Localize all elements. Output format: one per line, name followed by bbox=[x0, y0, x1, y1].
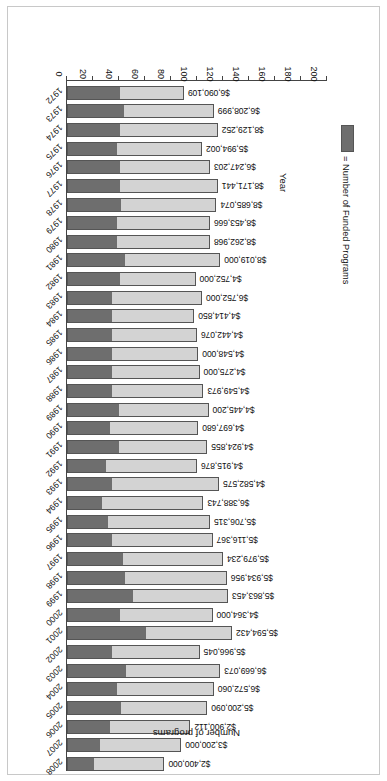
rotated-page-content: EXHIBIT 4-4 Funding History for U.S. Phy… bbox=[0, 0, 387, 781]
axis-tick-label: 40 bbox=[104, 69, 114, 79]
year-label: 1998 bbox=[44, 570, 65, 591]
funding-bar bbox=[67, 123, 218, 137]
year-label: 1984 bbox=[44, 309, 65, 330]
programs-bar-segment bbox=[68, 310, 112, 322]
funding-bar bbox=[67, 682, 214, 696]
programs-bar-segment bbox=[68, 646, 112, 658]
programs-bar-segment bbox=[68, 255, 125, 267]
programs-bar-segment bbox=[68, 217, 117, 229]
funding-bar bbox=[67, 309, 194, 323]
funding-bar bbox=[67, 160, 210, 174]
axis-tick-label: 140 bbox=[231, 66, 241, 81]
year-label: 1983 bbox=[44, 290, 65, 311]
year-label: 1991 bbox=[44, 439, 65, 460]
funding-value-label: $4,414,850 bbox=[198, 309, 240, 323]
bar-row: $2,400,000 bbox=[67, 757, 327, 771]
programs-bar-segment bbox=[68, 273, 120, 285]
funding-value-label: $5,966,045 bbox=[204, 645, 246, 659]
funding-bar bbox=[67, 365, 200, 379]
year-label: 1978 bbox=[44, 197, 65, 218]
funding-value-label: $5,994,002 bbox=[206, 142, 248, 156]
bar-row: $4,414,850 bbox=[67, 309, 327, 323]
year-label: 1988 bbox=[44, 383, 65, 404]
programs-bar-segment bbox=[68, 87, 120, 99]
funding-value-label: $5,979,234 bbox=[227, 552, 269, 566]
year-label: 2001 bbox=[44, 626, 65, 647]
bar-row: $4,915,876 bbox=[67, 459, 327, 473]
funding-bar bbox=[67, 403, 209, 417]
year-label: 1976 bbox=[44, 160, 65, 181]
axis-tick-label: 100 bbox=[179, 66, 189, 81]
bar-row: $5,116,367 bbox=[67, 533, 327, 547]
programs-bar-segment bbox=[68, 758, 94, 770]
bar-row: $4,752,000 bbox=[67, 272, 327, 286]
programs-bar-segment bbox=[68, 404, 119, 416]
funding-value-label: $4,915,876 bbox=[201, 459, 243, 473]
bar-row: $5,594,432 bbox=[67, 626, 327, 640]
axis-tick bbox=[248, 76, 249, 81]
funding-value-label: $6,090,109 bbox=[188, 86, 230, 100]
funding-value-label: $4,445,200 bbox=[213, 403, 255, 417]
year-label: 1982 bbox=[44, 272, 65, 293]
programs-bar-segment bbox=[68, 627, 146, 639]
programs-bar-segment bbox=[68, 572, 125, 584]
bar-row: $5,200,090 bbox=[67, 701, 327, 715]
programs-bar-segment bbox=[68, 516, 108, 528]
year-label: 2007 bbox=[44, 738, 65, 759]
programs-bar-segment bbox=[68, 478, 112, 490]
legend-label-programs: = Number of Funded Programs bbox=[341, 156, 351, 284]
programs-bar-segment bbox=[68, 683, 117, 695]
legend-swatch-programs bbox=[341, 125, 354, 152]
funding-bar bbox=[67, 291, 202, 305]
funding-value-label: $5,706,315 bbox=[214, 515, 256, 529]
funding-bar bbox=[67, 626, 232, 640]
year-label: 2006 bbox=[44, 719, 65, 740]
bar-row: $4,548,000 bbox=[67, 347, 327, 361]
bar-row: $6,572,060 bbox=[67, 682, 327, 696]
bar-row: $4,364,000 bbox=[67, 608, 327, 622]
funding-bar bbox=[67, 459, 197, 473]
year-label: 1992 bbox=[44, 458, 65, 479]
programs-bar-segment bbox=[68, 590, 133, 602]
funding-bar bbox=[67, 533, 213, 547]
bar-row: $6,208,999 bbox=[67, 104, 327, 118]
bar-row: $4,582,575 bbox=[67, 477, 327, 491]
funding-value-label: $8,171,441 bbox=[222, 179, 264, 193]
funding-value-label: $4,752,000 bbox=[200, 272, 242, 286]
axis-tick bbox=[144, 76, 145, 81]
axis-tick bbox=[300, 76, 301, 81]
funding-value-label: $4,697,680 bbox=[202, 421, 244, 435]
axis-tick bbox=[170, 76, 171, 81]
programs-bar-segment bbox=[68, 422, 110, 434]
axis-tick bbox=[326, 76, 327, 81]
axis-tick-label: 180 bbox=[283, 66, 293, 81]
programs-bar-segment bbox=[68, 702, 121, 714]
programs-bar-segment bbox=[68, 161, 120, 173]
programs-bar-segment bbox=[68, 143, 117, 155]
year-label: 1973 bbox=[44, 104, 65, 125]
funding-bar bbox=[67, 254, 220, 268]
axis-tick bbox=[274, 76, 275, 81]
year-label: 2000 bbox=[44, 607, 65, 628]
funding-value-label: $6,388,743 bbox=[208, 496, 250, 510]
axis-tick bbox=[118, 76, 119, 81]
year-label: 1987 bbox=[44, 365, 65, 386]
funding-bar bbox=[67, 216, 210, 230]
year-label: 1974 bbox=[44, 122, 65, 143]
year-label: 1994 bbox=[44, 495, 65, 516]
year-label: 1980 bbox=[44, 234, 65, 255]
funding-bar bbox=[67, 198, 217, 212]
funding-bar bbox=[67, 515, 210, 529]
funding-value-label: $5,594,432 bbox=[236, 626, 278, 640]
funding-value-label: $5,200,090 bbox=[211, 701, 253, 715]
funding-value-label: $6,572,060 bbox=[218, 682, 260, 696]
bar-row: $8,262,968 bbox=[67, 235, 327, 249]
bar-row: $4,442,076 bbox=[67, 328, 327, 342]
funding-bar bbox=[67, 477, 219, 491]
chart-figure: $2,400,000$3,200,000$2,900,112$5,200,090… bbox=[7, 11, 327, 773]
year-label: 1975 bbox=[44, 141, 65, 162]
year-label: 2002 bbox=[44, 645, 65, 666]
axis-tick-label: 160 bbox=[257, 66, 267, 81]
funding-value-label: $4,275,000 bbox=[204, 365, 246, 379]
bar-row: $5,979,234 bbox=[67, 552, 327, 566]
